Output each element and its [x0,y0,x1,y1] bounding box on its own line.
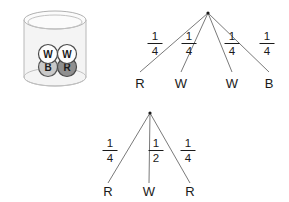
bottom-tree-branch-2 [149,113,150,183]
bottom-tree-probability-3-numerator: 1 [185,137,191,149]
bottom-tree-branch-1 [108,113,150,183]
bottom-tree-probability-3: 1 4 [181,137,196,164]
bottom-tree-probability-3-denominator: 4 [185,152,192,164]
bottom-tree-probability-2-numerator: 1 [153,137,159,149]
bottom-tree-diagram: 1 4 1 2 1 4 R W R [0,0,289,202]
bottom-tree-probability-1: 1 4 [103,137,118,164]
bottom-tree-probability-1-denominator: 4 [107,152,114,164]
bottom-tree-outcome-2: W [143,184,156,199]
bottom-tree-outcome-3: R [185,184,194,199]
figure-canvas: B R W W 1 4 1 [0,0,289,202]
bottom-tree-outcome-1: R [103,184,112,199]
bottom-tree-probability-2-denominator: 2 [153,152,159,164]
bottom-tree-probability-1-numerator: 1 [107,137,113,149]
bottom-tree-probability-2: 1 2 [149,137,164,164]
bottom-tree-apex-node [148,111,151,114]
